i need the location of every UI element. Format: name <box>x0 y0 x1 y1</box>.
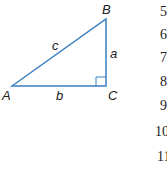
line-number: 7 <box>160 50 167 66</box>
line-number: 6 <box>160 27 167 43</box>
side-label-a: a <box>110 46 117 61</box>
vertex-label-b: B <box>102 2 111 17</box>
line-number: 10 <box>155 124 167 140</box>
side-label-c: c <box>52 38 59 53</box>
line-number: 8 <box>160 74 167 90</box>
right-angle-marker <box>96 77 106 86</box>
vertex-label-a: A <box>2 88 11 103</box>
triangle-diagram <box>0 0 167 169</box>
line-number: 5 <box>160 4 167 20</box>
line-number: 9 <box>160 98 167 114</box>
triangle <box>12 19 106 86</box>
vertex-label-c: C <box>108 88 117 103</box>
side-label-b: b <box>56 88 63 103</box>
line-number: 11 <box>157 149 167 165</box>
